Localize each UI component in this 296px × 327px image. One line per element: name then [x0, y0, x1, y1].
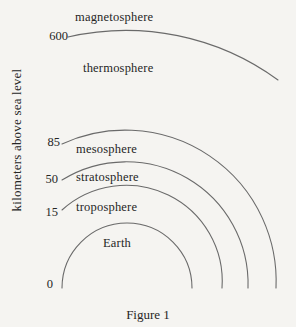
- tick-15: 15: [32, 205, 58, 219]
- y-axis-label: kilometers above sea level: [9, 57, 25, 223]
- magnetosphere-label: magnetosphere: [75, 10, 153, 24]
- earth-arc: [62, 223, 192, 288]
- tick-50: 50: [32, 172, 58, 186]
- figure-caption: Figure 1: [0, 307, 296, 322]
- mesosphere-label: mesosphere: [76, 142, 137, 156]
- atmosphere-layers-figure: kilometers above sea level 600 85 50 15 …: [0, 0, 296, 327]
- thermosphere-label: thermosphere: [83, 61, 153, 75]
- stratosphere-label: stratosphere: [76, 170, 139, 184]
- earth-label: Earth: [103, 236, 131, 250]
- troposphere-label: troposphere: [76, 200, 137, 214]
- tick-600: 600: [42, 29, 68, 43]
- tick-0: 0: [27, 277, 53, 291]
- tick-85: 85: [34, 135, 60, 149]
